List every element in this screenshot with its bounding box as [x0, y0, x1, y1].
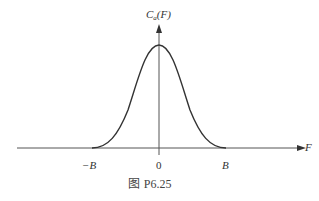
tick-label-b: B — [222, 160, 229, 171]
y-axis-arrow-icon — [156, 24, 162, 33]
caption-number: P6.25 — [144, 177, 172, 191]
x-axis-label: F — [305, 142, 312, 153]
tick-label-zero: 0 — [156, 160, 162, 171]
y-axis-label: Ca(F) — [146, 9, 171, 22]
tick-label-neg-b: −B — [82, 160, 96, 171]
figure-caption: 图 P6.25 — [128, 178, 172, 190]
caption-prefix: 图 — [128, 177, 140, 191]
